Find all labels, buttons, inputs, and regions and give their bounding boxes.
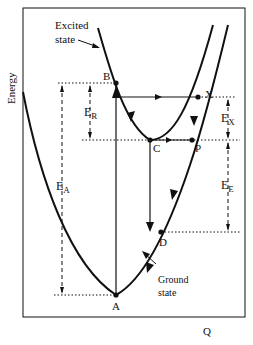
label-b: B bbox=[103, 70, 110, 82]
ground-state-curve bbox=[23, 25, 228, 295]
excited-state-label-1: Excited bbox=[55, 19, 89, 31]
configuration-coordinate-diagram: B X C P D A Excited state Ground state E… bbox=[0, 0, 253, 345]
excited-state-label-2: state bbox=[55, 33, 75, 45]
y-axis-label: Energy bbox=[5, 72, 17, 104]
label-x: X bbox=[205, 88, 213, 100]
label-c: C bbox=[153, 142, 160, 154]
point-c bbox=[147, 137, 152, 142]
ground-state-label-1: Ground bbox=[158, 274, 189, 285]
e-a-label: EA bbox=[56, 179, 70, 195]
point-p bbox=[189, 137, 194, 142]
label-a: A bbox=[112, 300, 120, 312]
emission-arrow-icon bbox=[146, 222, 154, 232]
e-e-label: EE bbox=[221, 178, 234, 194]
ground-relax-arrow-icon bbox=[170, 189, 178, 200]
point-b bbox=[113, 80, 118, 85]
point-a bbox=[113, 292, 118, 297]
b-to-x-arrow-icon bbox=[155, 94, 162, 100]
point-x bbox=[195, 94, 200, 99]
crossover-arrow-icon bbox=[190, 116, 198, 126]
e-r-label: ER bbox=[84, 105, 97, 121]
point-d bbox=[158, 229, 163, 234]
ground-relax-arrow-2-icon bbox=[146, 262, 154, 273]
label-d: D bbox=[159, 236, 167, 248]
x-axis-label: Q bbox=[203, 325, 211, 337]
e-x-label: EX bbox=[221, 111, 235, 127]
ground-state-label-2: state bbox=[158, 287, 177, 298]
plot-frame bbox=[23, 8, 245, 317]
label-p: P bbox=[195, 142, 201, 154]
